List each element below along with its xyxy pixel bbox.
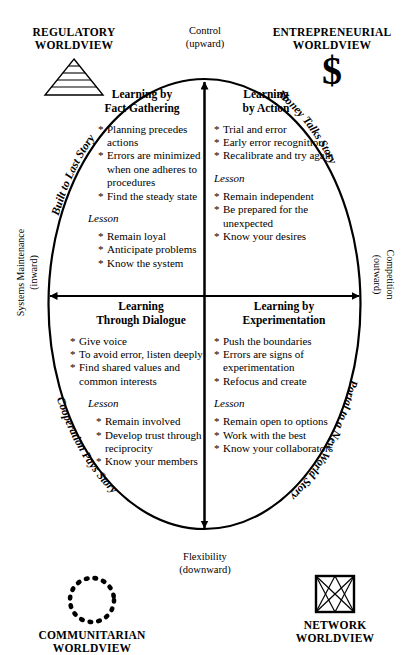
dollar-glyph: $	[322, 54, 342, 88]
quadrant-learning-by-action: Learning by Action Trial and error Early…	[214, 88, 342, 243]
list-item: Be prepared for the unexpected	[214, 203, 342, 230]
quadrant-title-line1: Learning	[214, 88, 318, 102]
list-item: Find the steady state	[98, 190, 214, 203]
list-item: Give voice	[70, 335, 212, 348]
lesson-label: Lesson	[88, 212, 214, 224]
list-item: Early error recognition	[214, 136, 342, 149]
list-item: Know your members	[96, 455, 212, 468]
list-item: Work with the best	[214, 429, 354, 442]
list-item: Find shared values and common interests	[70, 361, 212, 388]
quadrant-lesson-points: Remain open to options Work with the bes…	[214, 415, 354, 455]
lesson-label: Lesson	[214, 172, 342, 184]
regulatory-line1: REGULATORY	[4, 26, 144, 39]
list-item: Develop trust through reciprocity	[96, 429, 212, 456]
axis-label-control: Control (upward)	[168, 24, 242, 50]
network-square-icon	[265, 574, 405, 616]
quadrant-lesson-points: Remain involved Develop trust through re…	[70, 415, 212, 469]
axis-systems-line2: (inward)	[27, 203, 40, 343]
quadrant-points: Planning precedes actions Errors are min…	[88, 123, 214, 203]
list-item: Know your collaborators	[214, 442, 354, 455]
list-item: Remain open to options	[214, 415, 354, 428]
quadrant-experimentation: Learning by Experimentation Push the bou…	[214, 300, 354, 455]
list-item: Push the boundaries	[214, 335, 354, 348]
quadrant-title-line1: Learning by	[88, 88, 196, 102]
communitarian-line2: WORLDVIEW	[2, 642, 182, 655]
quadrant-title-line2: Experimentation	[214, 314, 354, 328]
axis-label-flexibility: Flexibility (downward)	[168, 550, 242, 576]
network-line1: NETWORK	[265, 619, 405, 632]
list-item: Errors are signs of experimentation	[214, 348, 354, 375]
list-item: Remain involved	[96, 415, 212, 428]
quadrant-points: Give voice To avoid error, listen deeply…	[70, 335, 212, 389]
quadrant-title-line2: by Action	[214, 102, 318, 116]
quadrant-title-line1: Learning by	[214, 300, 354, 314]
quadrant-lesson-points: Remain loyal Anticipate problems Know th…	[88, 230, 214, 270]
lesson-label: Lesson	[70, 397, 212, 409]
quadrant-fact-gathering: Learning by Fact Gathering Planning prec…	[88, 88, 214, 270]
quadrant-points: Push the boundaries Errors are signs of …	[214, 335, 354, 389]
list-item: Planning precedes actions	[98, 123, 214, 150]
axis-label-competition: Competition (outward)	[371, 205, 396, 345]
quadrant-title-line1: Learning	[70, 300, 212, 314]
list-item: To avoid error, listen deeply	[70, 348, 212, 361]
axis-control-line2: (upward)	[168, 37, 242, 50]
quadrant-title: Learning by Experimentation	[214, 300, 354, 328]
corner-entrepreneurial-worldview: ENTREPRENEURIAL WORLDVIEW $	[257, 26, 407, 88]
list-item: Recalibrate and try again	[214, 149, 342, 162]
list-item: Remain loyal	[98, 230, 214, 243]
list-item: Know the system	[98, 257, 214, 270]
axis-competition-line2: (outward)	[371, 205, 384, 345]
axis-control-line1: Control	[168, 24, 242, 37]
quadrant-title-line2: Fact Gathering	[88, 102, 196, 116]
list-item: Know your desires	[214, 230, 342, 243]
axis-systems-line1: Systems Maintenance	[15, 203, 28, 343]
axis-label-systems-maintenance: Systems Maintenance (inward)	[15, 203, 40, 343]
list-item: Anticipate problems	[98, 243, 214, 256]
axis-competition-line1: Competition	[383, 205, 396, 345]
quadrant-title: Learning Through Dialogue	[70, 300, 212, 328]
entrepreneurial-line1: ENTREPRENEURIAL	[257, 26, 407, 39]
dollar-sign-icon: $	[257, 52, 407, 88]
dotted-circle-icon	[2, 574, 182, 626]
regulatory-line2: WORLDVIEW	[4, 39, 144, 52]
quadrant-title: Learning by Fact Gathering	[88, 88, 196, 116]
communitarian-line1: COMMUNITARIAN	[2, 629, 182, 642]
list-item: Errors are minimized when one adheres to…	[98, 149, 214, 189]
list-item: Trial and error	[214, 123, 342, 136]
quadrant-title-line2: Through Dialogue	[70, 314, 212, 328]
corner-regulatory-worldview: REGULATORY WORLDVIEW	[4, 26, 144, 97]
quadrant-through-dialogue: Learning Through Dialogue Give voice To …	[70, 300, 212, 469]
lesson-label: Lesson	[214, 397, 354, 409]
corner-communitarian-worldview: COMMUNITARIAN WORLDVIEW	[2, 574, 182, 655]
network-line2: WORLDVIEW	[265, 632, 405, 645]
list-item: Remain independent	[214, 190, 342, 203]
list-item: Refocus and create	[214, 375, 354, 388]
quadrant-lesson-points: Remain independent Be prepared for the u…	[214, 190, 342, 244]
quadrant-points: Trial and error Early error recognition …	[214, 123, 342, 163]
corner-network-worldview: NETWORK WORLDVIEW	[265, 574, 405, 645]
quadrant-title: Learning by Action	[214, 88, 318, 116]
axis-flexibility-line1: Flexibility	[168, 550, 242, 563]
